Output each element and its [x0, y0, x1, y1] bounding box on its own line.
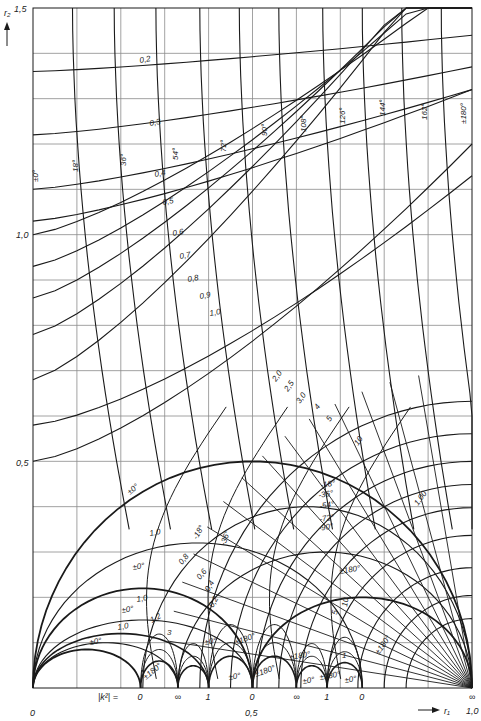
contour-label: -36° — [318, 488, 335, 500]
k-mark-label: 1 — [324, 692, 329, 702]
contour-label: 0,9 — [199, 290, 212, 301]
contour-label: 0,2 — [139, 54, 152, 65]
contour-label: 4 — [312, 402, 322, 411]
k-mark-label: 0 — [250, 692, 255, 702]
k-mark-label: ∞ — [175, 692, 181, 702]
contour-label: 2,5 — [282, 378, 297, 394]
contour-curve — [223, 502, 472, 689]
x-tick-1-0: 1,0 — [466, 706, 479, 716]
x-tick-0-5: 0,5 — [245, 708, 259, 718]
contour-label: 72° — [219, 139, 228, 152]
contour-label: ±180° — [373, 633, 393, 656]
k-mark-label: 0 — [359, 692, 364, 702]
contour-label: -18° — [320, 478, 337, 490]
contour-label: ±0° — [132, 561, 146, 572]
contour-label: 3 — [167, 628, 172, 637]
contour-curve — [114, 8, 170, 529]
baseline-marks: 0∞10∞10∞ — [138, 692, 476, 702]
contour-label: 1,0 — [149, 527, 162, 538]
x-axis-arrow-icon — [418, 707, 440, 713]
y-tick-0-5: 0,5 — [16, 458, 30, 468]
k-mark-label: 1 — [206, 692, 211, 702]
contour-label: 0,7 — [179, 250, 192, 261]
contour-label: -18° — [191, 523, 207, 541]
contour-label: 0,4 — [203, 578, 217, 593]
contour-label: 108° — [299, 115, 308, 132]
contour-curve — [156, 8, 212, 529]
contour-label: ±0° — [31, 169, 40, 182]
contour-labels: 0,20,30,40,50,60,70,80,91,02,02,53,04510… — [31, 54, 468, 686]
k-mark-label: 0 — [138, 692, 143, 702]
contour-label: ±0° — [89, 636, 103, 647]
contour-label: ±180° — [254, 663, 278, 679]
contour-label: ±180° — [339, 563, 362, 576]
contour-label: 126° — [338, 107, 347, 124]
y-axis-arrow-icon — [4, 22, 10, 46]
origin-label: 0 — [30, 708, 35, 718]
contour-label: 1,0 — [117, 621, 130, 632]
contour-label: -36° — [218, 529, 232, 547]
contour-label: 1 — [342, 651, 346, 660]
contour-label: ±0° — [121, 604, 135, 615]
contour-label: 0,8 — [177, 552, 191, 567]
contour-label: 5 — [330, 609, 340, 615]
contour-label: ±0° — [344, 674, 358, 685]
contour-label: 0,5 — [162, 196, 175, 207]
contour-label: 0,6 — [195, 567, 209, 582]
contour-curve — [239, 8, 293, 529]
y-tick-1-5: 1,5 — [14, 4, 28, 14]
contour-label: 36° — [119, 153, 128, 166]
contour-label: -90° — [318, 521, 335, 533]
contour-label: 1,2 — [149, 611, 164, 625]
nomogram-chart: r₂ 1,5 1,0 0,5 0 0,5 1,0 r₁ |k²| = 0∞10∞… — [0, 0, 481, 721]
contour-curve — [323, 8, 376, 529]
contour-label: 18° — [71, 159, 80, 172]
contour-label: 0,8 — [187, 273, 200, 284]
k-mark-label: ∞ — [293, 692, 299, 702]
y-tick-1-0: 1,0 — [16, 230, 29, 240]
contour-label: ±180° — [234, 631, 258, 647]
x-axis-label: r₁ — [444, 706, 450, 716]
y-axis-label: r₂ — [4, 8, 11, 18]
contour-label: ±0° — [228, 671, 242, 682]
contour-label: 10 — [352, 434, 365, 447]
contour-label: 0,6 — [172, 227, 185, 238]
contour-label: ±0° — [204, 636, 218, 647]
contour-curve — [402, 8, 453, 529]
contour-label: 1,0 — [209, 307, 222, 318]
contour-curve — [441, 8, 472, 529]
k-mark-label: ∞ — [469, 692, 475, 702]
contour-label: 1,00 — [412, 489, 429, 507]
k-squared-label: |k²| = — [98, 692, 118, 702]
contour-label: 162° — [420, 103, 429, 120]
contour-curve — [33, 650, 141, 689]
contour-label: ±180° — [459, 102, 468, 124]
contour-label: ±0° — [302, 675, 316, 686]
contour-curve — [200, 8, 255, 529]
contour-label: 144° — [378, 99, 387, 116]
contour-curve — [419, 376, 472, 689]
contour-label: 54° — [171, 147, 180, 160]
contour-label: 5 — [324, 414, 334, 423]
contour-label: 90° — [260, 123, 269, 136]
